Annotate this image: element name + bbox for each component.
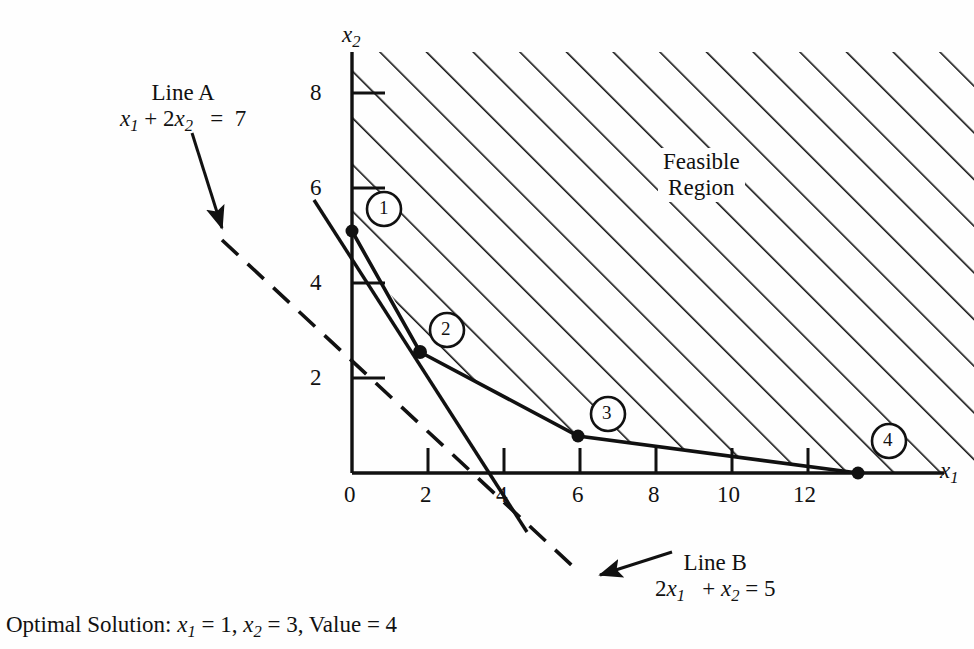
vertex-label-4: 4: [883, 429, 893, 450]
y-axis-label: x2: [342, 22, 361, 51]
feasible-region-label: Feasible Region: [658, 148, 745, 202]
x-tick-label-8: 8: [648, 482, 660, 508]
vertex-label-3: 3: [602, 402, 612, 423]
y-tick-label-6: 6: [310, 175, 322, 201]
y-tick-label-8: 8: [310, 80, 322, 106]
y-axis-label-subscript: 2: [352, 32, 360, 51]
figure-canvas: x2 x1 8 6 4 2 0 2 4 6 8 10 12 1 2 3 4 Fe…: [0, 0, 974, 649]
feasible-region-hatching: [352, 40, 974, 473]
line-b-equation: 2x1 + x2 = 5: [655, 576, 775, 605]
vertex-label-1: 1: [379, 197, 389, 218]
line-b-annotation: Line B 2x1 + x2 = 5: [655, 550, 775, 605]
x-tick-label-6: 6: [572, 482, 584, 508]
line-b-title: Line B: [655, 550, 775, 576]
y-tick-label-2: 2: [310, 365, 322, 391]
feasible-region-label-line1: Feasible: [663, 149, 740, 175]
line-a-title: Line A: [120, 80, 246, 106]
x-tick-label-0: 0: [344, 482, 356, 508]
line-a-equation: x1 + 2x2 = 7: [120, 106, 246, 135]
x-tick-label-12: 12: [793, 482, 816, 508]
optimal-solution-caption: Optimal Solution: x1 = 1, x2 = 3, Value …: [6, 612, 397, 642]
feasible-region-label-line2: Region: [663, 175, 740, 201]
x-axis-label-subscript: 1: [950, 468, 958, 487]
y-tick-label-4: 4: [310, 270, 322, 296]
x-tick-label-10: 10: [717, 482, 740, 508]
x-tick-label-4: 4: [496, 482, 508, 508]
line-a-arrow: [192, 133, 222, 228]
vertex-label-2: 2: [441, 318, 451, 339]
x-tick-label-2: 2: [420, 482, 432, 508]
x-axis-label: x1: [940, 458, 959, 487]
line-a-annotation: Line A x1 + 2x2 = 7: [120, 80, 246, 135]
